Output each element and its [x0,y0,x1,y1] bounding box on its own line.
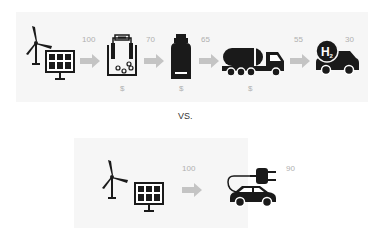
hydrogen-tank-icon [170,34,192,80]
svg-text:H: H [321,45,330,59]
solar-panel-icon [45,50,75,82]
value-label: 65 [201,35,210,44]
electrolyzer-icon [105,33,139,79]
tanker-truck-icon [222,44,286,78]
solar-panel-icon [134,182,164,214]
electric-car-icon [226,162,282,210]
arrow-right-icon [80,54,100,68]
value-label: 100 [82,35,95,44]
arrow-right-icon [144,54,164,68]
arrow-right-icon [199,54,219,68]
value-label: 70 [146,35,155,44]
cost-label: $ [179,84,183,93]
value-label: 30 [345,35,354,44]
comparison-separator: VS. [178,111,193,121]
arrow-right-icon [290,54,310,68]
value-label: 90 [286,164,295,173]
cost-label: $ [248,84,252,93]
value-label: 55 [294,35,303,44]
cost-label: $ [120,84,124,93]
value-label: 100 [182,164,195,173]
arrow-right-icon [182,183,202,197]
wind-turbine-icon [100,158,132,200]
hydrogen-car-icon: H 2 [314,40,360,78]
